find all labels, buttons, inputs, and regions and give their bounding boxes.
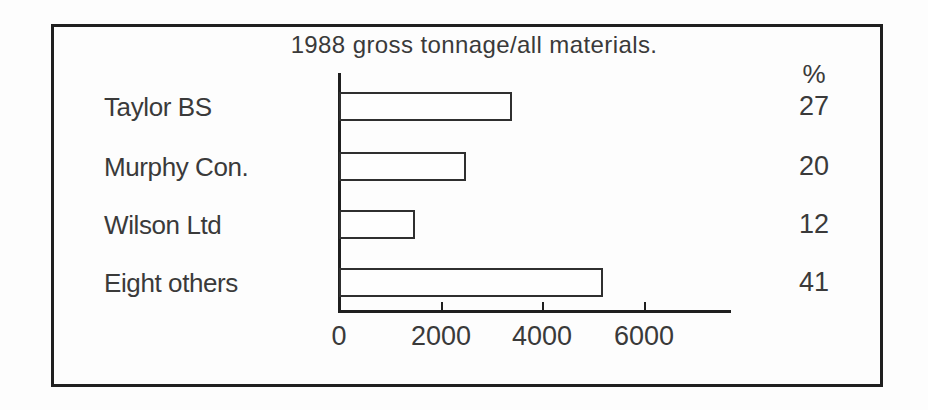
bar-eight-others	[339, 268, 603, 297]
percent-value-taylor-bs: 27	[799, 92, 829, 121]
x-tick-label-6000: 6000	[614, 321, 674, 352]
category-label-taylor-bs: Taylor BS	[104, 92, 212, 122]
category-label-wilson-ltd: Wilson Ltd	[104, 210, 221, 240]
x-tick-label-2000: 2000	[411, 321, 471, 352]
category-label-murphy-con: Murphy Con.	[104, 152, 248, 182]
percent-column-header: %	[802, 59, 825, 90]
bar-wilson-ltd	[339, 210, 415, 239]
percent-value-wilson-ltd: 12	[799, 210, 829, 239]
chart-title: 1988 gross tonnage/all materials.	[291, 31, 658, 59]
x-tick-6000	[644, 302, 646, 311]
x-axis-line	[338, 310, 731, 313]
bar-taylor-bs	[339, 92, 512, 121]
x-tick-label-4000: 4000	[512, 321, 572, 352]
category-label-eight-others: Eight others	[104, 268, 238, 298]
percent-value-eight-others: 41	[799, 268, 829, 297]
bar-murphy-con	[339, 152, 466, 181]
percent-value-murphy-con: 20	[799, 152, 829, 181]
x-tick-4000	[542, 302, 544, 311]
x-tick-2000	[441, 302, 443, 311]
x-tick-label-0: 0	[331, 321, 346, 352]
scanned-chart-page: 1988 gross tonnage/all materials. % Tayl…	[0, 0, 928, 410]
